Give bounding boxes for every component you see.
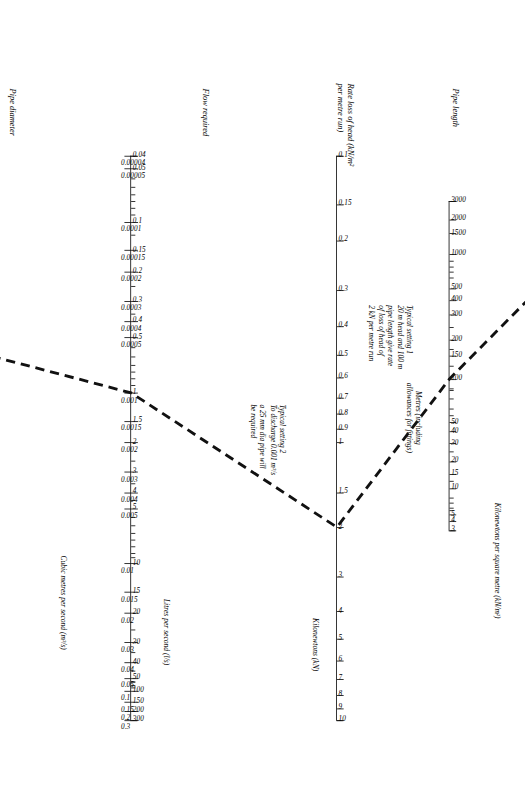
axis-minor-tick xyxy=(449,365,453,366)
axis-minor-tick xyxy=(131,532,135,533)
axis-minor-tick xyxy=(131,557,135,558)
axis-minor-tick xyxy=(131,378,135,379)
axis-tick-label: 0.00015 xyxy=(121,252,145,260)
axis-tick-label: 0.00005 xyxy=(121,171,145,179)
axis-tick-label: 0.002 xyxy=(121,445,138,453)
axis-tick-label: 0.02 xyxy=(121,615,134,623)
axis-minor-tick xyxy=(131,460,135,461)
axis-tick-label: 0.2 xyxy=(338,234,347,242)
axis-tick-label: 2 xyxy=(338,521,342,529)
axis-tick-label: 30 xyxy=(132,636,139,644)
head-available-unit-bottom: Kilonewtons per square metre (kN/m²) xyxy=(492,417,501,703)
axis-tick xyxy=(124,508,131,509)
axis-minor-tick xyxy=(131,356,135,357)
axis-minor-tick xyxy=(131,546,135,547)
flow-unit-bottom: Cubic metres per second (m³/s) xyxy=(58,485,67,720)
axis-tick-label: 0.2 xyxy=(132,265,141,273)
axis-tick-label: 6 xyxy=(338,654,342,662)
axis-title-pipe-length: Pipe length xyxy=(450,88,460,126)
axis-minor-tick xyxy=(449,497,453,498)
axis-tick-label: 0.0002 xyxy=(121,274,141,282)
axis-tick xyxy=(124,321,131,322)
axis-minor-tick xyxy=(131,629,135,630)
axis-minor-tick xyxy=(131,539,135,540)
axis-tick-label: 0.0001 xyxy=(121,224,141,232)
axis-tick-label: 2 xyxy=(132,436,136,444)
axis-tick-label: 0.00004 xyxy=(121,158,145,166)
axis-tick-label: 0.01 xyxy=(121,566,134,574)
nomogram-figure: Head available 1009080706050403020151098… xyxy=(0,65,525,743)
axis-tick-label: 0.15 xyxy=(338,198,351,206)
axis-tick-label: 1000 xyxy=(451,248,466,256)
axis-tick-label: 0.15 xyxy=(132,244,145,252)
construction-line-path xyxy=(0,266,525,527)
axis-tick xyxy=(124,592,131,593)
axis-tick xyxy=(124,492,131,493)
axis-tick xyxy=(124,471,131,472)
axis-tick-label: 5 xyxy=(338,632,342,640)
axis-tick-label: 0.005 xyxy=(121,511,138,519)
axis-minor-tick xyxy=(449,326,453,327)
axis-tick-label: 0.6 xyxy=(338,372,347,380)
axis-minor-tick xyxy=(131,525,135,526)
axis-tick-label: 10 xyxy=(132,557,139,565)
axis-tick-label: 3 xyxy=(132,466,136,474)
axis-minor-tick xyxy=(449,502,453,503)
axis-tick xyxy=(124,337,131,338)
axis-tick-label: 0.3 xyxy=(338,284,347,292)
axis-tick-label: 20 xyxy=(451,455,458,463)
axis-tick-label: 9 xyxy=(338,702,342,710)
axis-minor-tick xyxy=(449,507,453,508)
axis-tick-label: 0.9 xyxy=(338,423,347,431)
axis-minor-tick xyxy=(449,388,453,389)
axis-tick-label: 50 xyxy=(451,416,458,424)
axis-tick-label: 0.3 xyxy=(132,295,141,303)
axis-minor-tick xyxy=(449,481,453,482)
axis-tick-label: 100 xyxy=(451,373,462,381)
axis-tick-label: 0.0003 xyxy=(121,303,141,311)
axis-tick xyxy=(124,300,131,301)
axis-tick-label: 150 xyxy=(132,696,143,704)
axis-tick-label: 0.5 xyxy=(132,331,141,339)
axis-tick xyxy=(124,250,131,251)
axis-tick-label: 1.5 xyxy=(132,415,141,423)
axis-tick-label: 150 xyxy=(451,350,462,358)
axis-tick-label: 8 xyxy=(338,689,342,697)
axis-tick xyxy=(124,421,131,422)
axis-minor-tick xyxy=(131,364,135,365)
axis-tick-label: 2000 xyxy=(451,213,466,221)
axis-minor-tick xyxy=(131,285,135,286)
axis-tick-label: 0.04 xyxy=(121,665,134,673)
axis-tick-label: 0.1 xyxy=(121,693,130,701)
axis-tick-label: 1500 xyxy=(451,227,466,235)
axis-tick-label: 1 xyxy=(338,436,342,444)
axis-tick-label: 4 xyxy=(132,486,136,494)
axis-minor-tick xyxy=(131,186,135,187)
axis-tick xyxy=(124,702,131,703)
axis-title-pipe-diameter: Pipe diameter xyxy=(7,88,17,135)
axis-tick-label: 20 xyxy=(132,607,139,615)
axis-tick-label: 0.003 xyxy=(121,474,138,482)
axis-tick-label: 3 xyxy=(338,570,342,578)
axis-minor-tick xyxy=(449,266,453,267)
axis-tick-label: 0.015 xyxy=(121,594,138,602)
axis-minor-tick xyxy=(131,194,135,195)
axis-tick-label: 1.5 xyxy=(338,486,347,494)
axis-minor-tick xyxy=(131,384,135,385)
annotation-typical-setting-2: Typical setting 2 To discharge 0.001 m³/… xyxy=(248,404,286,475)
axis-tick xyxy=(124,662,131,663)
axis-tick-label: 0.7 xyxy=(338,391,347,399)
axis-tick-label: 0.0004 xyxy=(121,324,141,332)
axis-tick-label: 0.004 xyxy=(121,495,138,503)
axis-minor-tick xyxy=(131,208,135,209)
axis-tick-label: 15 xyxy=(451,468,458,476)
axis-tick xyxy=(124,613,131,614)
axis-tick-label: 300 xyxy=(451,309,462,317)
axis-tick xyxy=(124,690,131,691)
axis-tick xyxy=(124,155,131,156)
axis-tick xyxy=(124,642,131,643)
axis-tick-label: 4 xyxy=(338,605,342,613)
axis-minor-tick xyxy=(449,398,453,399)
axis-minor-tick xyxy=(131,371,135,372)
axis-tick-label: 0.1 xyxy=(338,150,347,158)
